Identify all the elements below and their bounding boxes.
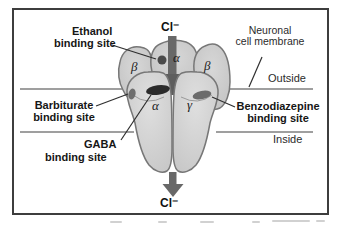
subunit-beta-back-right-letter: β [204, 59, 210, 72]
barbiturate-label: Barbiturate binding site [24, 100, 104, 123]
gaba-label-line1: GABA [84, 139, 116, 151]
ethanol-site-spot [158, 56, 167, 65]
chloride-ion-label-top: Cl⁻ [161, 21, 179, 34]
benzodiazepine-label: Benzodiazepine binding site [232, 101, 324, 124]
arrow-shaft [169, 172, 177, 186]
outside-label: Outside [268, 73, 306, 85]
chloride-ion-label-bottom: Cl⁻ [160, 197, 178, 210]
subunit-gamma-front-letter: γ [187, 98, 192, 111]
gaba-label-line2: binding site [45, 152, 107, 164]
neuronal-membrane-label: Neuronal cell membrane [225, 25, 315, 47]
subunit-beta-back-left-letter: β [131, 60, 137, 73]
benzodiazepine-label-line1: Benzodiazepine [232, 101, 324, 113]
membrane-leader-line [249, 57, 262, 87]
benzodiazepine-label-line2: binding site [232, 113, 324, 125]
neuronal-membrane-label-line2: cell membrane [225, 36, 315, 47]
ethanol-label-line1: Ethanol [72, 26, 112, 38]
chloride-flow-arrow-icon [163, 172, 184, 197]
figure-gaba-receptor-diagram: Ethanol binding site Cl⁻ Neuronal cell m… [0, 0, 339, 225]
inside-label: Inside [273, 134, 302, 146]
subunit-alpha-back-center-letter: α [173, 51, 180, 64]
barbiturate-label-line2: binding site [24, 112, 104, 124]
subunit-gamma-front-shape [173, 72, 218, 173]
subunit-alpha-front-letter: α [152, 99, 159, 112]
barbiturate-label-line1: Barbiturate [24, 100, 104, 112]
ethanol-label-line2: binding site [54, 38, 116, 50]
